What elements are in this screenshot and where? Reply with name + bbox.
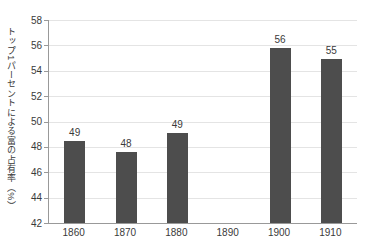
- y-tick-mark: [44, 20, 48, 21]
- y-tick-mark: [44, 96, 48, 97]
- y-tick-label: 50: [14, 116, 42, 127]
- y-tick-mark: [44, 172, 48, 173]
- y-tick-label: 48: [14, 141, 42, 152]
- bar: [321, 59, 342, 223]
- gridline: [49, 71, 357, 72]
- plot-area: 4948495655: [48, 20, 357, 224]
- y-tick-label: 46: [14, 167, 42, 178]
- bar-value-label: 48: [111, 138, 141, 149]
- y-tick-mark: [44, 147, 48, 148]
- bar: [270, 48, 291, 223]
- x-tick-label: 1890: [206, 227, 250, 239]
- bar-value-label: 55: [316, 45, 346, 56]
- y-tick-mark: [44, 71, 48, 72]
- gridline: [49, 122, 357, 123]
- gridline: [49, 20, 357, 21]
- gridline: [49, 198, 357, 199]
- gridline: [49, 96, 357, 97]
- x-tick-label: 1900: [257, 227, 301, 239]
- bar-chart-figure: トップ1パーセントによる富の占有率（%） 4948495655 42444648…: [0, 0, 365, 252]
- y-tick-mark: [44, 122, 48, 123]
- x-tick-label: 1910: [308, 227, 352, 239]
- bar-value-label: 56: [265, 34, 295, 45]
- y-tick-mark: [44, 223, 48, 224]
- bar: [116, 152, 137, 223]
- bar: [167, 133, 188, 223]
- bar-value-label: 49: [60, 127, 90, 138]
- gridline: [49, 147, 357, 148]
- x-tick-label: 1860: [52, 227, 96, 239]
- y-tick-label: 52: [14, 91, 42, 102]
- gridline: [49, 172, 357, 173]
- gridline: [49, 45, 357, 46]
- y-tick-label: 42: [14, 218, 42, 229]
- y-tick-mark: [44, 198, 48, 199]
- bar: [64, 141, 85, 223]
- y-tick-label: 58: [14, 15, 42, 26]
- y-tick-label: 56: [14, 40, 42, 51]
- y-tick-mark: [44, 45, 48, 46]
- x-tick-label: 1880: [154, 227, 198, 239]
- y-tick-label: 44: [14, 192, 42, 203]
- y-tick-label: 54: [14, 65, 42, 76]
- bar-value-label: 49: [162, 119, 192, 130]
- x-tick-label: 1870: [103, 227, 147, 239]
